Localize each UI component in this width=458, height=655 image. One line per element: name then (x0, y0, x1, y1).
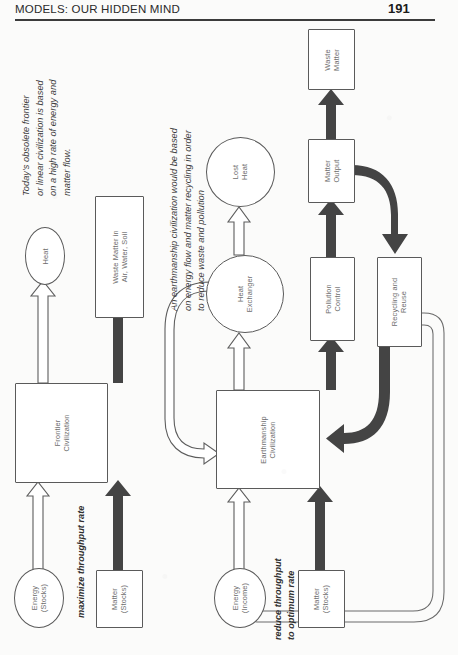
node-matter-stocks-right-label: Matter (Stocks) (313, 585, 331, 613)
right-flow-label: reduce throughput to optimum rate (272, 558, 297, 640)
node-energy-income-label: Energy (Income) (231, 583, 249, 613)
node-heat-label: Heat (41, 248, 50, 264)
arrow-matter-output-to-recycling (352, 165, 408, 254)
node-pollution-control-label: Pollution Control (323, 284, 341, 314)
arrow-frontier-to-heat (31, 281, 55, 383)
node-heat[interactable]: Heat (25, 227, 65, 285)
arrow-earthmanship-to-heat-exchanger (228, 333, 250, 390)
node-recycling-and-reuse[interactable]: Recycling and Reuse (377, 257, 422, 347)
arrow-pollution-control-to-matter-output (318, 199, 344, 257)
node-matter-stocks-left-label: Matter (Stocks) (111, 585, 129, 613)
node-heat-exchanger-label: Heat Exchanger (236, 276, 254, 313)
node-heat-exchanger[interactable]: Heat Exchanger (206, 255, 284, 333)
node-matter-stocks-right[interactable]: Matter (Stocks) (298, 570, 345, 628)
node-pollution-control[interactable]: Pollution Control (310, 257, 355, 341)
arrow-heat-exchanger-to-lost-heat (228, 207, 250, 255)
node-recycling-and-reuse-label: Recycling and Reuse (391, 278, 409, 326)
left-diagram-caption: Today's obsolete frontier or linear civi… (20, 80, 74, 196)
node-frontier-civilization[interactable]: Frontier Civilization (15, 383, 108, 483)
node-energy-income[interactable]: Energy (Income) (214, 568, 266, 628)
node-earthmanship-civilization-label: Earthmanship Civilization (259, 416, 277, 463)
node-frontier-civilization-label: Frontier Civilization (53, 414, 71, 451)
node-waste-matter-left[interactable]: Waste Matter in Air, Water, Soil (95, 196, 144, 318)
arrow-matter-output-to-waste-matter (318, 89, 344, 140)
node-waste-matter-right[interactable]: Waste Matter (308, 29, 355, 90)
node-matter-output[interactable]: Matter Output (308, 139, 355, 203)
arrow-matter-to-earthmanship (307, 486, 333, 572)
node-earthmanship-civilization[interactable]: Earthmanship Civilization (216, 390, 320, 489)
node-energy-stocks-label: Energy (Stocks) (30, 584, 48, 612)
left-flow-label: maximize throughput rate (75, 506, 88, 618)
node-waste-matter-left-label: Waste Matter in Air, Water, Soil (111, 230, 129, 284)
arrow-earthmanship-to-pollution-control (318, 336, 344, 390)
node-matter-output-label: Matter Output (323, 159, 341, 182)
right-diagram-caption: An earthmanship civilization would be ba… (168, 128, 209, 311)
node-lost-heat-label: Lost Heat (232, 164, 250, 180)
arrow-energy-to-frontier (27, 482, 49, 570)
arrow-matter-to-frontier (105, 480, 131, 572)
node-matter-stocks-left[interactable]: Matter (Stocks) (96, 570, 143, 628)
node-waste-matter-right-label: Waste Matter (322, 49, 340, 71)
arrow-energy-income-to-earthmanship (228, 488, 250, 572)
node-lost-heat[interactable]: Lost Heat (206, 137, 275, 207)
node-energy-stocks[interactable]: Energy (Stocks) (14, 568, 64, 628)
